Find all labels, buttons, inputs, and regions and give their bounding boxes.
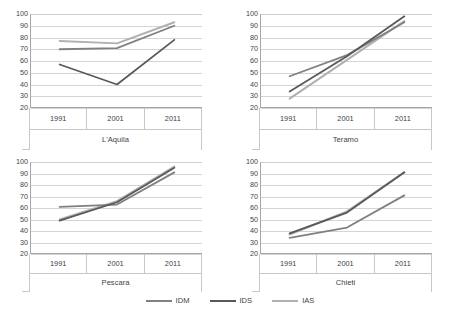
y-tick-label: 60 (20, 204, 28, 211)
panel-title-l-aquila: L'Aquila (30, 130, 202, 150)
y-tick-label: 50 (250, 216, 258, 223)
series-line-ids (60, 40, 175, 85)
x-axis-categories: 199120012011 (30, 254, 202, 274)
plot-area-pescara (30, 162, 202, 254)
y-tick-label: 40 (250, 227, 258, 234)
y-tick-label: 100 (246, 10, 258, 17)
series-line-ias (290, 172, 405, 234)
panel-grid: 1009080706050403020199120012011L'Aquila … (0, 0, 460, 288)
y-tick-label: 80 (250, 181, 258, 188)
y-tick-label: 80 (20, 181, 28, 188)
series-line-ids (290, 16, 405, 91)
legend-swatch-ids (210, 300, 236, 302)
y-tick-label: 90 (20, 170, 28, 177)
y-tick-label: 40 (20, 227, 28, 234)
y-tick-label: 50 (20, 216, 28, 223)
series-line-ids (290, 172, 405, 233)
x-tick-label: 2001 (87, 254, 144, 273)
y-tick-label: 30 (20, 93, 28, 100)
x-tick-label: 1991 (30, 108, 87, 129)
legend-swatch-idm (146, 300, 172, 302)
y-tick-label: 80 (250, 34, 258, 41)
legend-label: IAS (302, 296, 314, 305)
x-tick-label: 2001 (87, 108, 144, 129)
y-axis-labels: 1009080706050403020 (230, 14, 260, 108)
series-line-ias (60, 167, 175, 220)
panel-teramo: 1009080706050403020199120012011Teramo (230, 0, 460, 150)
panel-title-teramo: Teramo (260, 130, 432, 150)
y-tick-label: 80 (20, 34, 28, 41)
y-axis-labels: 1009080706050403020 (0, 14, 30, 108)
legend-swatch-ias (272, 300, 298, 302)
y-tick-label: 70 (250, 46, 258, 53)
legend-label: IDM (176, 296, 190, 305)
x-tick-label: 2011 (145, 108, 202, 129)
x-axis-categories: 199120012011 (260, 108, 432, 130)
panel-chieti: 1009080706050403020199120012011Chieti (230, 150, 460, 288)
x-tick-label: 2011 (375, 108, 432, 129)
y-tick-label: 90 (250, 170, 258, 177)
y-tick-label: 60 (20, 57, 28, 64)
x-tick-label: 2011 (375, 254, 432, 273)
axis-corner-spacer (252, 108, 260, 150)
y-tick-label: 70 (20, 193, 28, 200)
y-tick-label: 50 (20, 69, 28, 76)
series-lines-l-aquila (31, 14, 203, 108)
y-axis-labels: 1009080706050403020 (230, 162, 260, 254)
y-tick-label: 60 (250, 57, 258, 64)
x-tick-label: 2011 (145, 254, 202, 273)
y-tick-label: 70 (250, 193, 258, 200)
series-lines-teramo (261, 14, 433, 108)
y-tick-label: 30 (250, 93, 258, 100)
axis-corner-spacer (252, 254, 260, 292)
x-tick-label: 2001 (317, 108, 374, 129)
y-tick-label: 40 (20, 81, 28, 88)
series-lines-pescara (31, 162, 203, 254)
x-tick-label: 1991 (260, 108, 317, 129)
y-tick-label: 70 (20, 46, 28, 53)
legend-item-ids[interactable]: IDS (210, 296, 253, 305)
chart-legend: IDMIDSIAS (0, 288, 460, 313)
plot-area-chieti (260, 162, 432, 254)
y-tick-label: 30 (20, 239, 28, 246)
x-tick-label: 2001 (317, 254, 374, 273)
x-axis-categories: 199120012011 (30, 108, 202, 130)
y-tick-label: 90 (250, 22, 258, 29)
y-tick-label: 60 (250, 204, 258, 211)
y-tick-label: 30 (250, 239, 258, 246)
y-tick-label: 100 (246, 158, 258, 165)
x-tick-label: 1991 (260, 254, 317, 273)
panel-laquila: 1009080706050403020199120012011L'Aquila (0, 0, 230, 150)
series-lines-chieti (261, 162, 433, 254)
chart-sheet: 1009080706050403020199120012011L'Aquila … (0, 0, 460, 313)
x-axis-categories: 199120012011 (260, 254, 432, 274)
y-tick-label: 100 (16, 10, 28, 17)
legend-item-ias[interactable]: IAS (272, 296, 314, 305)
y-tick-label: 40 (250, 81, 258, 88)
series-line-ids (60, 168, 175, 221)
axis-corner-spacer (22, 254, 30, 292)
axis-corner-spacer (22, 108, 30, 150)
plot-area-teramo (260, 14, 432, 108)
y-axis-labels: 1009080706050403020 (0, 162, 30, 254)
x-tick-label: 1991 (30, 254, 87, 273)
legend-item-idm[interactable]: IDM (146, 296, 190, 305)
y-tick-label: 90 (20, 22, 28, 29)
series-line-idm (290, 195, 405, 238)
y-tick-label: 50 (250, 69, 258, 76)
panel-pescara: 1009080706050403020199120012011Pescara (0, 150, 230, 288)
legend-label: IDS (240, 296, 253, 305)
y-tick-label: 100 (16, 158, 28, 165)
plot-area-l-aquila (30, 14, 202, 108)
series-line-idm (290, 22, 405, 76)
